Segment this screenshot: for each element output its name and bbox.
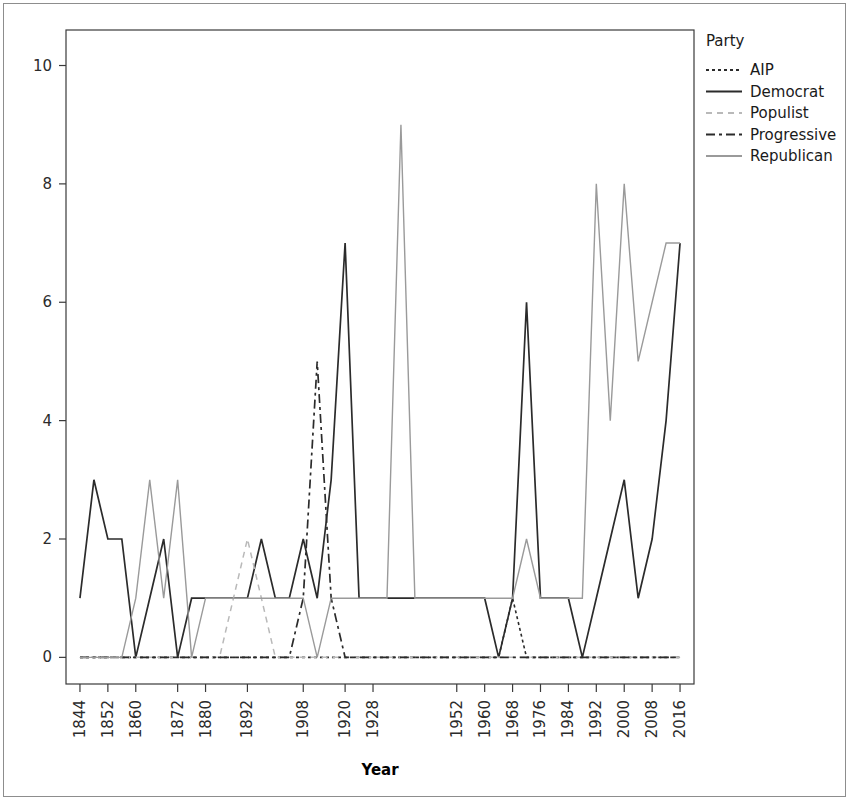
y-tick-label: 0 — [42, 648, 52, 666]
y-tick-label: 8 — [42, 175, 52, 193]
legend-title: Party — [706, 32, 745, 50]
x-tick-label: 1968 — [504, 700, 522, 738]
legend-item-label: AIP — [750, 61, 774, 79]
x-tick-label: 1860 — [127, 700, 145, 738]
x-tick-label: 1892 — [238, 700, 256, 738]
y-tick-label: 4 — [42, 412, 52, 430]
x-axis-ticks: 1844185218601872188018921908192019281952… — [71, 684, 689, 738]
x-tick-label: 2000 — [615, 700, 633, 738]
y-tick-label: 2 — [42, 530, 52, 548]
legend-item-label: Populist — [750, 104, 809, 122]
x-axis-title: Year — [360, 761, 399, 779]
legend-item-label: Republican — [750, 147, 833, 165]
chart-page: 0246810 18441852186018721880189219081920… — [0, 0, 850, 801]
x-tick-label: 1960 — [476, 700, 494, 738]
x-tick-label: 2008 — [643, 700, 661, 738]
legend-item-label: Democrat — [750, 83, 824, 101]
x-tick-label: 1880 — [197, 700, 215, 738]
x-tick-label: 1992 — [587, 700, 605, 738]
x-tick-label: 1952 — [448, 700, 466, 738]
y-tick-label: 6 — [42, 293, 52, 311]
x-tick-label: 1928 — [364, 700, 382, 738]
x-tick-label: 1844 — [71, 700, 89, 738]
x-tick-label: 1852 — [99, 700, 117, 738]
legend-item-label: Progressive — [750, 126, 836, 144]
legend: AIPDemocratPopulistProgressiveRepublican — [706, 61, 836, 165]
y-axis-ticks: 0246810 — [33, 57, 66, 667]
y-tick-label: 10 — [33, 57, 52, 75]
x-tick-label: 1908 — [294, 700, 312, 738]
x-tick-label: 1976 — [531, 700, 549, 738]
x-tick-label: 1920 — [336, 700, 354, 738]
line-chart: 0246810 18441852186018721880189219081920… — [0, 0, 850, 801]
x-tick-label: 1872 — [169, 700, 187, 738]
x-tick-label: 2016 — [671, 700, 689, 738]
x-tick-label: 1984 — [559, 700, 577, 738]
